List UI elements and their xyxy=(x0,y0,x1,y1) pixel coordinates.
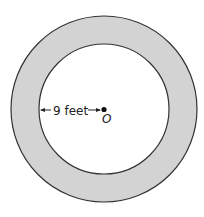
annulus-diagram: 9 feet O xyxy=(0,0,204,217)
center-label: O xyxy=(102,112,111,126)
radius-label: 9 feet xyxy=(53,104,88,118)
